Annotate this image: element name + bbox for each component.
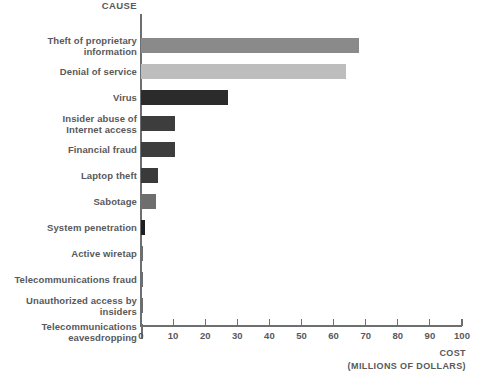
bar	[141, 64, 346, 79]
bar	[141, 220, 145, 235]
category-label: Telecommunications eavesdropping	[0, 321, 137, 343]
x-axis-tick	[140, 319, 141, 326]
x-axis-tick-label: 100	[454, 330, 470, 341]
x-axis-tick	[269, 319, 270, 326]
bar	[141, 272, 143, 287]
category-label: Telecommunications fraud	[0, 274, 137, 285]
bar	[141, 246, 143, 261]
x-axis-tick	[205, 319, 206, 326]
category-label: System penetration	[0, 222, 137, 233]
category-label: Laptop theft	[0, 170, 137, 181]
category-label: Financial fraud	[0, 144, 137, 155]
bar	[141, 38, 359, 53]
category-label: Active wiretap	[0, 248, 137, 259]
category-label: Sabotage	[0, 196, 137, 207]
bar	[141, 168, 158, 183]
x-axis-tick-label: 90	[425, 330, 436, 341]
x-axis-tick	[429, 319, 430, 326]
category-label: Denial of service	[0, 66, 137, 77]
x-axis-tick-label: 40	[264, 330, 275, 341]
x-axis-tick	[237, 319, 238, 326]
category-label: Theft of proprietary information	[0, 35, 137, 57]
x-axis-tick	[397, 319, 398, 326]
x-axis-tick	[173, 319, 174, 326]
bar	[141, 90, 228, 105]
x-axis-title: COST (MILLIONS OF DOLLARS)	[348, 347, 466, 372]
x-axis-tick-label: 30	[232, 330, 243, 341]
x-axis-tick	[301, 319, 302, 326]
bar	[141, 194, 156, 209]
plot-area: 0102030405060708090100	[141, 14, 462, 325]
bar	[141, 298, 143, 313]
x-axis-tick-label: 50	[296, 330, 307, 341]
x-axis-tick-label: 20	[200, 330, 211, 341]
category-axis-title: CAUSE	[0, 0, 137, 11]
x-axis-tick-label: 80	[393, 330, 404, 341]
x-axis-tick-label: 10	[168, 330, 179, 341]
x-axis-tick	[365, 319, 366, 326]
category-label: Unauthorized access by insiders	[0, 295, 137, 317]
category-label: Insider abuse of Internet access	[0, 113, 137, 135]
x-axis-tick-label: 0	[138, 330, 143, 341]
x-axis-tick	[333, 319, 334, 326]
x-axis-tick-label: 70	[360, 330, 371, 341]
category-label: Virus	[0, 92, 137, 103]
bar	[141, 116, 175, 131]
x-axis-tick-label: 60	[328, 330, 339, 341]
x-axis-tick	[461, 319, 462, 326]
bar	[141, 142, 175, 157]
bar-chart: CAUSE 0102030405060708090100 COST (MILLI…	[0, 0, 482, 385]
